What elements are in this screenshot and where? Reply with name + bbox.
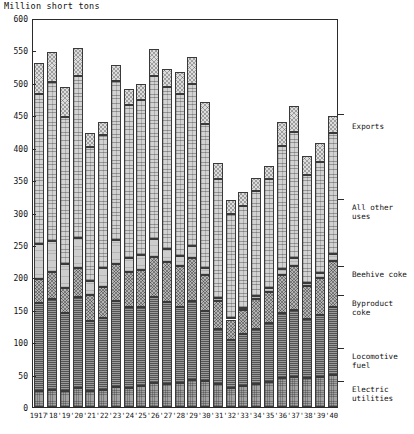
y-axis-tick-label: 600 — [14, 15, 28, 24]
bar-36 — [277, 122, 287, 407]
bar-segment-electric-utilities — [328, 375, 338, 407]
bar-segment-locomotive-fuel — [200, 311, 210, 381]
x-axis-tick-label: '30 — [198, 411, 211, 420]
bar-segment-byproduct-coke — [187, 258, 197, 301]
bar-20 — [73, 48, 83, 407]
bar-segment-byproduct-coke — [175, 266, 185, 307]
bar-segment-byproduct-coke — [85, 295, 95, 321]
x-axis-tick-label: '23 — [108, 411, 121, 420]
bar-segment-locomotive-fuel — [136, 307, 146, 386]
y-axis-tick-mark — [32, 278, 36, 279]
bar-segment-electric-utilities — [302, 378, 312, 407]
bar-segment-byproduct-coke — [136, 270, 146, 307]
bar-segment-byproduct-coke — [315, 278, 325, 315]
bar-segment-all-other-uses — [124, 105, 134, 258]
y-axis-tick-mark — [32, 214, 36, 215]
x-axis-tick-label: '27 — [159, 411, 172, 420]
bar-segment-beehive-coke — [213, 298, 223, 301]
bar-segment-locomotive-fuel — [302, 319, 312, 379]
y-axis-tick-label: 100 — [14, 339, 28, 348]
bar-segment-all-other-uses — [162, 87, 172, 248]
bar-segment-beehive-coke — [289, 258, 299, 266]
bar-segment-locomotive-fuel — [251, 329, 261, 385]
x-axis-tick-label: '26 — [147, 411, 160, 420]
bar-23 — [111, 65, 121, 407]
bar-segment-all-other-uses — [47, 82, 57, 241]
bar-segment-all-other-uses — [213, 179, 223, 298]
bar-segment-byproduct-coke — [251, 299, 261, 328]
bar-segment-all-other-uses — [226, 214, 236, 318]
bar-26 — [149, 49, 159, 407]
bar-segment-electric-utilities — [277, 378, 287, 407]
x-axis-tick-label: '18 — [45, 411, 58, 420]
bar-segment-byproduct-coke — [149, 257, 159, 297]
bar-segment-byproduct-coke — [47, 272, 57, 299]
bar-segment-locomotive-fuel — [289, 310, 299, 377]
bar-31 — [213, 163, 223, 407]
bar-segment-beehive-coke — [162, 249, 172, 263]
bars-layer — [33, 20, 337, 407]
bar-segment-beehive-coke — [264, 288, 274, 292]
bar-segment-locomotive-fuel — [73, 297, 83, 387]
bar-segment-byproduct-coke — [60, 288, 70, 313]
bar-segment-exports — [34, 63, 44, 94]
bar-segment-beehive-coke — [85, 281, 95, 295]
legend-tick — [338, 295, 344, 296]
bar-35 — [264, 166, 274, 407]
legend-label-exports: Exports — [352, 122, 384, 131]
bar-segment-locomotive-fuel — [328, 307, 338, 374]
x-axis-tick-label: '32 — [223, 411, 236, 420]
x-axis-tick-label: '33 — [236, 411, 249, 420]
bar-segment-electric-utilities — [213, 384, 223, 407]
bar-segment-locomotive-fuel — [85, 321, 95, 391]
y-axis-tick-mark — [32, 116, 36, 117]
bar-segment-exports — [289, 106, 299, 132]
y-axis-tick-label: 400 — [14, 144, 28, 153]
bar-segment-beehive-coke — [328, 254, 338, 261]
bar-segment-beehive-coke — [277, 269, 287, 275]
bar-21 — [85, 133, 95, 407]
bar-segment-byproduct-coke — [124, 272, 134, 307]
legend-label-byproduct-coke: Byproduct coke — [352, 299, 414, 317]
bar-segment-electric-utilities — [315, 377, 325, 407]
bar-segment-beehive-coke — [98, 268, 108, 287]
bar-segment-exports — [328, 116, 338, 134]
bar-segment-exports — [98, 122, 108, 135]
bar-segment-exports — [315, 143, 325, 162]
bar-segment-electric-utilities — [34, 391, 44, 407]
bar-segment-electric-utilities — [200, 381, 210, 407]
bar-segment-byproduct-coke — [34, 279, 44, 303]
bar-segment-exports — [73, 48, 83, 77]
y-axis-tick-label: 500 — [14, 79, 28, 88]
bar-segment-exports — [213, 163, 223, 179]
x-axis-tick-label: '21 — [83, 411, 96, 420]
bar-segment-electric-utilities — [162, 384, 172, 407]
bar-segment-beehive-coke — [111, 240, 121, 264]
bar-segment-locomotive-fuel — [47, 299, 57, 389]
bar-segment-all-other-uses — [264, 179, 274, 287]
bar-segment-electric-utilities — [149, 383, 159, 407]
bar-segment-beehive-coke — [149, 239, 159, 257]
bar-segment-beehive-coke — [34, 244, 44, 279]
bar-segment-all-other-uses — [73, 76, 83, 238]
bar-segment-all-other-uses — [200, 124, 210, 268]
bar-33 — [238, 192, 248, 407]
x-axis-tick-label: '20 — [70, 411, 83, 420]
bar-segment-electric-utilities — [175, 383, 185, 407]
x-axis-tick-label: '24 — [121, 411, 134, 420]
bar-segment-exports — [124, 89, 134, 105]
y-axis-tick-label: 300 — [14, 209, 28, 218]
bar-segment-electric-utilities — [226, 388, 236, 407]
bar-segment-exports — [136, 84, 146, 100]
y-axis-tick-label: 200 — [14, 274, 28, 283]
x-axis-tick-label: '31 — [210, 411, 223, 420]
bar-1917 — [34, 63, 44, 407]
bar-segment-locomotive-fuel — [315, 315, 325, 377]
bar-25 — [136, 83, 146, 407]
legend-tick — [338, 348, 344, 349]
bar-segment-locomotive-fuel — [162, 302, 172, 384]
bar-segment-locomotive-fuel — [149, 297, 159, 383]
x-axis-tick-label: '19 — [57, 411, 70, 420]
bar-segment-byproduct-coke — [302, 286, 312, 318]
bar-38 — [302, 156, 312, 407]
